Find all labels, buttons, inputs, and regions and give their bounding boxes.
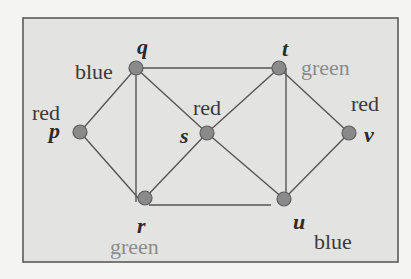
- color-label-u: blue: [314, 231, 352, 253]
- color-label-v: red: [351, 93, 379, 115]
- color-label-s: red: [193, 97, 221, 119]
- vertex-label-q: q: [137, 36, 148, 58]
- vertex-label-t: t: [282, 38, 288, 60]
- vertex-label-v: v: [364, 124, 374, 146]
- vertex-label-u: u: [293, 211, 305, 233]
- vertex-r: [138, 191, 152, 205]
- vertex-t: [272, 61, 286, 75]
- vertex-p: [73, 125, 87, 139]
- graph-coloring-diagram: p q r s t u v red blue green red green b…: [0, 0, 411, 279]
- vertex-u: [277, 192, 291, 206]
- vertex-q: [129, 61, 143, 75]
- color-label-r: green: [110, 236, 159, 258]
- color-label-q: blue: [75, 61, 113, 83]
- vertex-label-s: s: [180, 125, 189, 147]
- vertex-v: [342, 126, 356, 140]
- color-label-t: green: [301, 57, 350, 79]
- vertex-s: [200, 126, 214, 140]
- color-label-p: red: [32, 102, 60, 124]
